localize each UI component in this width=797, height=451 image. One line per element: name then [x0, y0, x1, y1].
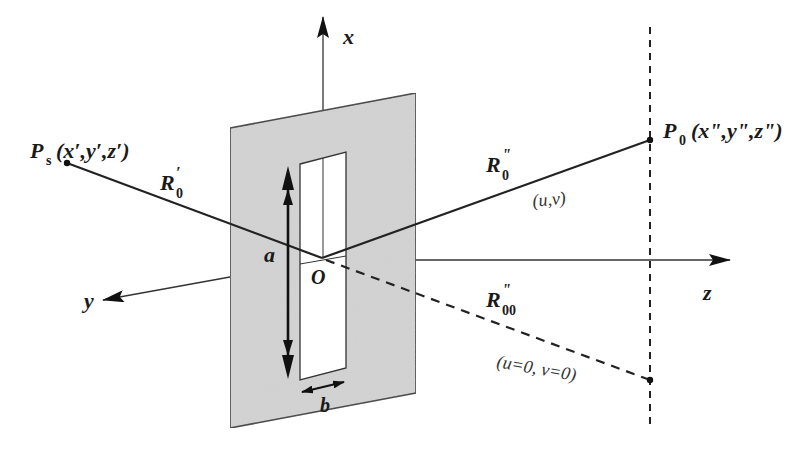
- diffraction-diagram: x y z O a b P s (x′,y′,z′) P 0 (x",y",z"…: [0, 0, 797, 451]
- svg-text:R: R: [159, 170, 175, 195]
- center-point: [647, 377, 653, 383]
- svg-text:s: s: [46, 153, 52, 168]
- svg-text:(x",y",z"): (x",y",z"): [691, 118, 783, 143]
- svg-text:": ": [502, 281, 511, 298]
- source-label: P s (x′,y′,z′): [29, 138, 130, 168]
- incident-ray-label: R ′ 0: [159, 164, 183, 201]
- svg-text:(x′,y′,z′): (x′,y′,z′): [56, 138, 130, 163]
- svg-text:P: P: [662, 118, 677, 143]
- svg-text:P: P: [29, 138, 44, 163]
- diffracted-ray-label: R " 0: [485, 146, 511, 183]
- svg-text:00: 00: [502, 303, 516, 318]
- svg-text:R: R: [485, 152, 501, 177]
- svg-text:′: ′: [176, 164, 181, 181]
- observation-point: [647, 137, 653, 143]
- center-uv-label: (u=0, v=0): [495, 351, 578, 386]
- svg-text:0: 0: [679, 133, 686, 148]
- x-axis-label: x: [342, 24, 354, 49]
- z-axis-label: z: [702, 280, 712, 305]
- y-axis: [103, 277, 230, 300]
- central-ray-label: R " 00: [485, 281, 516, 318]
- svg-text:": ": [502, 146, 511, 163]
- svg-text:0: 0: [502, 168, 509, 183]
- svg-text:R: R: [485, 287, 501, 312]
- slit-width-label: b: [320, 394, 330, 416]
- observation-label: P 0 (x",y",z"): [662, 118, 783, 148]
- origin-label: O: [311, 266, 325, 288]
- y-axis-label: y: [81, 288, 94, 313]
- point-uv-label: (u,v): [531, 188, 566, 212]
- slit-height-label: a: [264, 242, 275, 267]
- svg-text:0: 0: [176, 186, 183, 201]
